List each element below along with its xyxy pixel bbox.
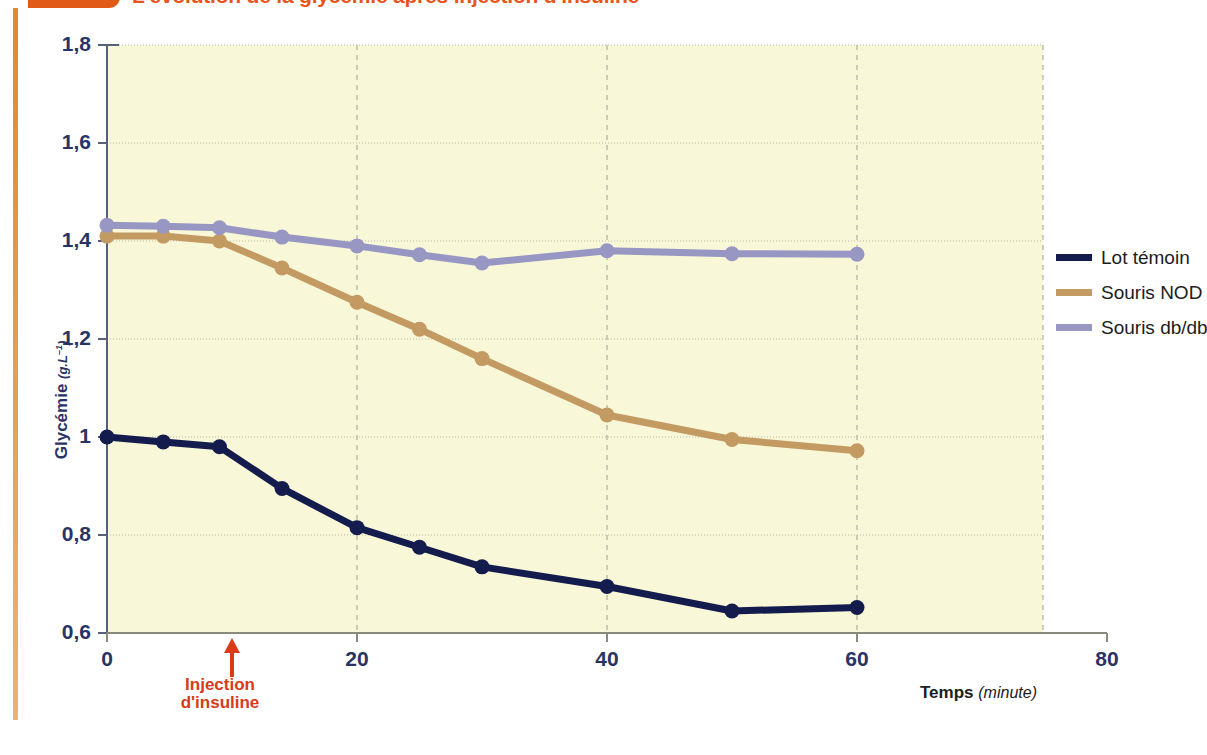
legend-item[interactable]: Lot témoin	[1056, 240, 1207, 275]
legend-item[interactable]: Souris db/db	[1056, 310, 1207, 345]
x-axis-label-unit: (minute)	[978, 684, 1037, 701]
legend-item-label: Souris db/db	[1101, 317, 1207, 339]
legend-item-label: Souris NOD	[1101, 282, 1202, 304]
y-tick-label: 1,2	[41, 326, 91, 350]
injection-line-1: Injection	[157, 676, 283, 694]
axis-lines	[98, 45, 1107, 642]
x-axis-label-text: Temps	[920, 683, 974, 702]
legend-color-swatch	[1056, 324, 1092, 331]
x-tick-label: 60	[827, 647, 887, 671]
injection-arrow	[224, 638, 240, 677]
x-tick-label: 40	[577, 647, 637, 671]
x-tick-label: 0	[77, 647, 137, 671]
y-tick-label: 0,6	[41, 620, 91, 644]
x-tick-label: 20	[327, 647, 387, 671]
legend-item-label: Lot témoin	[1101, 247, 1190, 269]
legend-color-swatch	[1056, 289, 1092, 296]
gridlines	[107, 45, 1043, 633]
injection-annotation: Injection d'insuline	[157, 676, 283, 712]
series-lines	[100, 218, 865, 619]
chart-canvas	[0, 0, 1207, 755]
y-tick-label: 1,8	[41, 32, 91, 56]
figure-page: L'évolution de la glycémie après injecti…	[0, 0, 1207, 755]
legend-item[interactable]: Souris NOD	[1056, 275, 1207, 310]
y-tick-label: 0,8	[41, 522, 91, 546]
x-axis-label: Temps (minute)	[920, 683, 1037, 703]
x-tick-label: 80	[1077, 647, 1137, 671]
y-tick-label: 1	[41, 424, 91, 448]
legend-color-swatch	[1056, 254, 1092, 261]
y-tick-label: 1,4	[41, 228, 91, 252]
chart-legend: Lot témoinSouris NODSouris db/db	[1056, 240, 1207, 345]
y-tick-label: 1,6	[41, 130, 91, 154]
injection-line-2: d'insuline	[157, 694, 283, 712]
